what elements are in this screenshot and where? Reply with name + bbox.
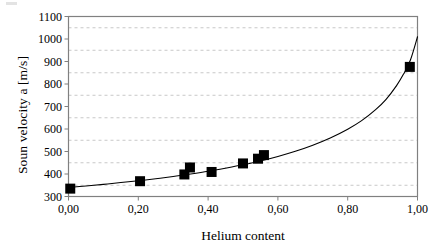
y-tick-label: 600 xyxy=(22,123,62,135)
x-tick-label: 0,00 xyxy=(39,203,99,215)
data-point-marker xyxy=(135,176,145,186)
plot-border xyxy=(69,17,418,197)
x-tick-label: 0,40 xyxy=(178,203,238,215)
data-point-marker xyxy=(405,62,415,72)
data-markers xyxy=(65,62,415,194)
y-tick-label: 900 xyxy=(22,56,62,68)
y-tick-label: 1000 xyxy=(22,33,62,45)
x-tick-label: 0,80 xyxy=(318,203,378,215)
y-tick-label: 400 xyxy=(22,168,62,180)
y-tick-label: 500 xyxy=(22,146,62,158)
x-axis-title: Helium content xyxy=(68,228,418,244)
scan-artifact xyxy=(6,2,17,5)
axis-frame xyxy=(69,17,418,197)
data-point-marker xyxy=(238,158,248,168)
x-tick-label: 0,60 xyxy=(248,203,308,215)
data-point-marker xyxy=(65,184,75,194)
x-axis-tick-labels: 0,000,200,400,600,801,00 xyxy=(0,203,447,221)
chart-figure: Soun velocity a [m/s] 300400500600700800… xyxy=(0,0,447,251)
y-tick-label: 800 xyxy=(22,78,62,90)
x-tick-label: 0,20 xyxy=(108,203,168,215)
x-tick-label: 1,00 xyxy=(388,203,447,215)
data-point-marker xyxy=(185,162,195,172)
data-point-marker xyxy=(207,167,217,177)
y-tick-label: 300 xyxy=(22,191,62,203)
y-tick-label: 700 xyxy=(22,101,62,113)
data-point-marker xyxy=(259,150,269,160)
x-axis-ticks xyxy=(69,197,418,201)
y-tick-label: 1100 xyxy=(22,11,62,23)
